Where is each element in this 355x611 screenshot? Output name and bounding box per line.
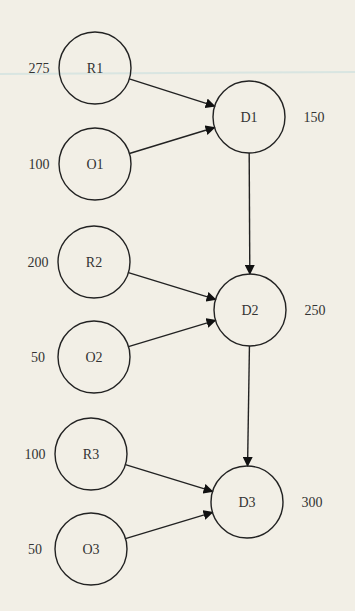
node-label: D3 [238,495,255,510]
node-label: O3 [82,542,99,557]
scan-artifact-line [0,72,355,74]
node-d1: D1150 [213,81,325,153]
edge-r2-d2 [128,273,215,300]
node-label: D1 [240,110,257,125]
node-value-label: 150 [304,110,325,125]
node-o3: O350 [28,513,127,585]
node-value-label: 100 [25,447,46,462]
node-value-label: 50 [28,542,42,557]
edge-o3-d3 [125,512,212,538]
node-label: R1 [87,61,103,76]
node-r2: R2200 [28,226,131,298]
node-r1: R1275 [29,32,132,104]
node-value-label: 275 [29,61,50,76]
node-label: D2 [241,303,258,318]
edge-o1-d1 [129,128,214,154]
edge-o2-d2 [128,320,215,346]
node-value-label: 300 [302,495,323,510]
edge-r1-d1 [129,79,214,106]
edge-r3-d3 [125,465,212,492]
node-value-label: 50 [31,350,45,365]
edge-d2-d3 [248,346,250,466]
node-value-label: 100 [29,157,50,172]
node-d3: D3300 [211,466,323,538]
flow-diagram: R1275O1100D1150R2200O250D2250R3100O350D3… [0,0,355,611]
node-o2: O250 [31,321,130,393]
node-label: O1 [86,157,103,172]
node-label: O2 [85,350,102,365]
node-o1: O1100 [29,128,132,200]
node-label: R3 [83,447,99,462]
edge-d1-d2 [249,153,250,274]
node-value-label: 200 [28,255,49,270]
node-value-label: 250 [305,303,326,318]
node-label: R2 [86,255,102,270]
node-r3: R3100 [25,418,128,490]
node-d2: D2250 [214,274,326,346]
